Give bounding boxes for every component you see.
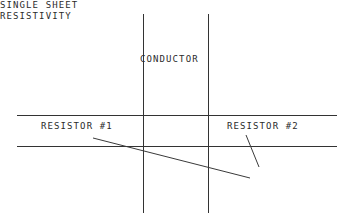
resistor-2-label: RESISTOR #2: [227, 121, 299, 132]
conductor-label: CONDUCTOR: [140, 54, 199, 65]
diagram-canvas: [0, 0, 350, 223]
resistor-1-leader-line: [93, 138, 250, 178]
technical-diagram: CONDUCTOR RESISTOR #1 RESISTOR #2 SINGLE…: [0, 0, 350, 223]
resistor-1-label: RESISTOR #1: [41, 121, 113, 132]
single-sheet-leader-line: [246, 135, 259, 167]
